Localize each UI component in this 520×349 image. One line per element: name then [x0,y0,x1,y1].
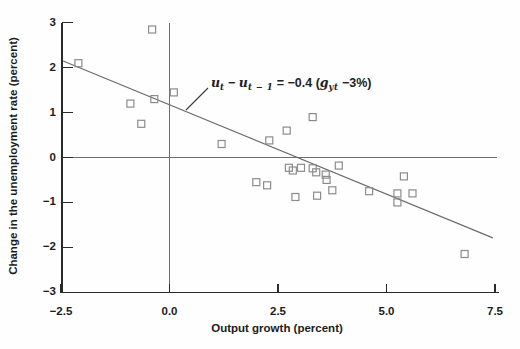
regression-equation: ut − ut − 1 = −0.4 (gyt −3%) [211,75,371,92]
data-point-square [127,100,134,107]
x-tick-label: 7.5 [473,305,517,317]
plot-area [0,0,520,349]
equation-segment: −3%) [338,76,371,90]
data-point-square [400,173,407,180]
equation-segment: t − 1 [248,82,273,92]
equation-segment: = −0.4 ( [273,76,320,90]
y-tick-label: 3 [24,16,56,28]
data-point-square [138,120,145,127]
equation-segment: g [320,75,329,90]
equation-segment: u [239,75,248,90]
y-tick-label: −1 [24,195,56,207]
data-point-square [149,26,156,33]
x-tick-label: 2.5 [256,305,300,317]
y-tick-label: −3 [24,285,56,297]
data-point-square [264,182,271,189]
okun-law-scatter-chart: Change in the unemployment rate (percent… [0,0,520,349]
y-tick-label: 2 [24,61,56,73]
data-point-square [335,162,342,169]
data-point-square [218,141,225,148]
data-point-square [170,89,177,96]
equation-segment: u [211,75,220,90]
x-tick-label: 5.0 [365,305,409,317]
data-point-square [266,137,273,144]
x-axis-title: Output growth (percent) [127,322,427,334]
data-point-square [314,192,321,199]
annotation-leader-line [186,88,208,110]
y-axis-title: Change in the unemployment rate (percent… [7,6,19,306]
data-point-square [394,190,401,197]
y-tick-label: 0 [24,151,56,163]
data-point-square [409,190,416,197]
data-point-square [366,188,373,195]
x-tick-label: 0.0 [148,305,192,317]
equation-segment: yt [329,82,339,92]
data-point-square [329,187,336,194]
data-point-square [298,164,305,171]
equation-segment: − [225,76,239,90]
y-tick-label: 1 [24,106,56,118]
data-point-square [283,127,290,134]
data-point-square [253,179,260,186]
y-tick-label: −2 [24,240,56,252]
x-tick-label: −2.5 [39,305,83,317]
data-point-square [461,251,468,258]
data-point-square [309,114,316,121]
data-point-square [292,194,299,201]
